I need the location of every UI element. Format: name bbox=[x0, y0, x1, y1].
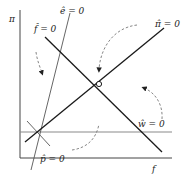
w-hat-label: ŵ = 0 bbox=[138, 119, 165, 129]
flow-arrow-upper-left bbox=[36, 52, 42, 73]
y-axis-label: π bbox=[8, 14, 16, 24]
phase-diagram: π f ŵ = 0 p̂ = 0 ê = 0 f̂ = 0 π̂ = 0 bbox=[0, 0, 185, 181]
e-hat-label: ê = 0 bbox=[60, 6, 85, 16]
equilibrium-marker bbox=[96, 81, 101, 86]
p-hat-label: p̂ = 0 bbox=[40, 154, 65, 164]
flow-arrow-lower bbox=[72, 124, 99, 150]
e-hat-line bbox=[31, 13, 70, 170]
f-hat-line bbox=[45, 37, 162, 152]
pi-hat-label: π̂ = 0 bbox=[154, 19, 180, 29]
x-axis-label: f bbox=[151, 164, 157, 174]
flow-arrow-upper-right bbox=[99, 25, 137, 70]
f-hat-label: f̂ = 0 bbox=[33, 23, 57, 34]
flow-arrow-lower-right bbox=[144, 88, 162, 119]
